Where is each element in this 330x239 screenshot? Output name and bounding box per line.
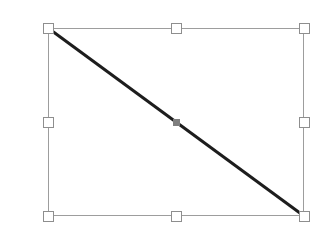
resize-handle-top-center[interactable] (171, 23, 182, 34)
resize-handle-bottom-right[interactable] (299, 211, 310, 222)
resize-handle-bottom-center[interactable] (171, 211, 182, 222)
resize-handle-bottom-left[interactable] (43, 211, 54, 222)
resize-handle-top-right[interactable] (299, 23, 310, 34)
selection-layer (0, 0, 330, 239)
resize-handle-top-left[interactable] (43, 23, 54, 34)
midpoint-handle[interactable] (173, 119, 180, 126)
drawing-canvas[interactable] (0, 0, 330, 239)
resize-handle-middle-left[interactable] (43, 117, 54, 128)
resize-handle-middle-right[interactable] (299, 117, 310, 128)
